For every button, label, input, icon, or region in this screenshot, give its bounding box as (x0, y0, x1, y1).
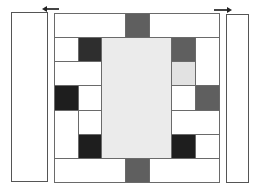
grid-cell-black (54, 85, 79, 111)
grid-cell-white (78, 110, 102, 135)
grid-cell-lighter (171, 61, 196, 86)
grid-cell-white (54, 110, 79, 159)
arrowhead-icon (42, 6, 47, 12)
grid-cell-white (171, 85, 196, 111)
grid-cell-white (54, 37, 79, 62)
grid-cell-white (78, 85, 102, 111)
grid-cell-white (149, 13, 220, 38)
grid-cell-white (54, 13, 126, 38)
grid-cell-mid (125, 158, 150, 183)
grid-cell-black (171, 134, 196, 159)
grid-cell-black (78, 134, 102, 159)
left-panel (11, 12, 48, 182)
left-arrow-icon (46, 8, 59, 10)
grid-cell-mid (125, 13, 150, 38)
grid-cell-white (149, 158, 220, 183)
grid-cell-white (171, 110, 220, 135)
arrowhead-icon (227, 7, 232, 13)
grid-cell-white (54, 61, 102, 86)
right-arrow-icon (214, 9, 228, 11)
grid-cell-mid (171, 37, 196, 62)
grid-cell-white (54, 158, 126, 183)
grid-cell-white (195, 37, 220, 86)
grid-cell-light (101, 37, 172, 159)
grid-cell-mid (195, 85, 220, 111)
grid-cell-dark (78, 37, 102, 62)
right-panel (226, 14, 249, 183)
grid-cell-white (195, 134, 220, 159)
